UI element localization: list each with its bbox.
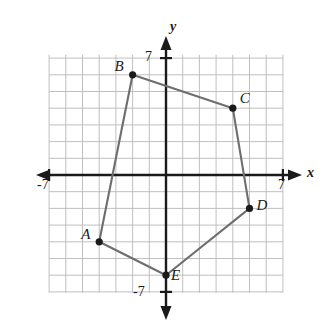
x-axis-arrow-right [288,170,302,181]
vertex-label-d: D [257,198,268,213]
coordinate-plane-svg [0,0,331,325]
vertex-label-b: B [115,59,124,74]
vertex-label-e: E [171,268,180,283]
vertex-point-d [246,205,253,212]
vertex-point-b [129,71,136,78]
y-axis-tick-label-positive: 7 [145,50,152,64]
vertex-point-c [229,105,236,112]
y-axis-arrow-up [161,36,172,50]
y-axis-label: y [170,20,176,34]
vertex-label-a: A [81,227,90,242]
vertex-point-a [96,238,103,245]
vertex-label-c: C [240,91,250,106]
y-axis-arrow-down [161,306,172,320]
axis-lines [36,36,302,320]
x-axis-tick-label-negative: -7 [37,178,49,192]
y-axis-tick-label-negative: -7 [133,285,145,299]
x-axis-label: x [307,166,314,180]
vertex-point-e [162,272,169,279]
x-axis-tick-label-positive: 7 [278,178,285,192]
coordinate-plane-figure: ABCDE x y -7 7 7 -7 [0,0,331,325]
